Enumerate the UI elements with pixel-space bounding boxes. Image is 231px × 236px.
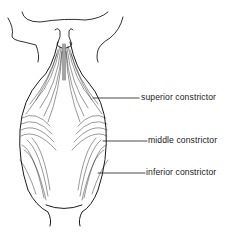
leader-lines [93,98,147,173]
skull-base-outline [8,12,123,62]
middle-constrictor-fibers [21,115,107,150]
label-inferior-constrictor: inferior constrictor [146,168,216,177]
inferior-constrictor-fibers [20,138,108,200]
label-middle-constrictor: middle constrictor [148,136,217,145]
pharynx-illustration [0,0,231,236]
label-superior-constrictor: superior constrictor [141,93,216,102]
